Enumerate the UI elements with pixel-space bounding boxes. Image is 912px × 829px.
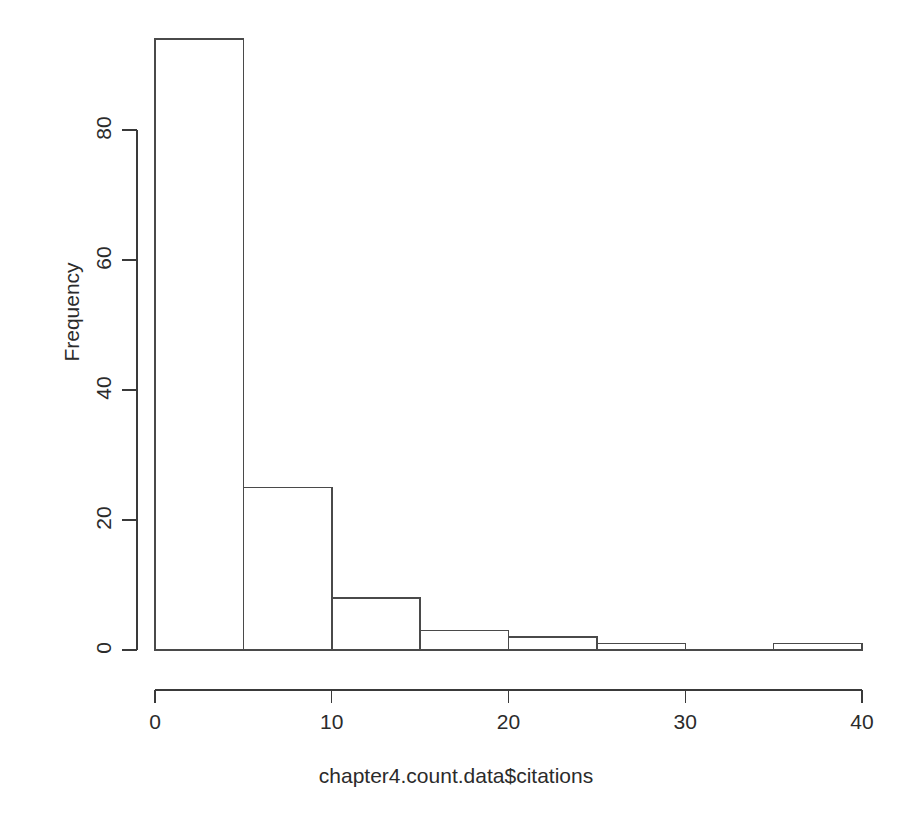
- histogram-bar: [597, 644, 685, 651]
- y-tick-label: 40: [84, 376, 124, 404]
- x-tick-label: 30: [674, 710, 697, 734]
- x-tick-label: 40: [850, 710, 873, 734]
- histogram-bar: [243, 488, 331, 651]
- histogram-bars: [155, 39, 862, 650]
- histogram-plot: 020406080 010203040 chapter4.count.data$…: [0, 0, 912, 829]
- histogram-bar: [509, 637, 597, 650]
- y-axis: [122, 130, 137, 650]
- y-tick-label: 60: [84, 246, 124, 274]
- x-axis: [155, 690, 862, 703]
- histogram-bar: [332, 598, 420, 650]
- histogram-bar: [774, 644, 862, 651]
- histogram-bar: [420, 631, 508, 651]
- y-tick-label: 0: [84, 636, 124, 664]
- y-tick-label-text: 80: [92, 108, 116, 148]
- y-tick-label-text: 0: [92, 628, 116, 668]
- x-tick-label: 0: [149, 710, 161, 734]
- x-tick-label: 10: [320, 710, 343, 734]
- y-axis-title: Frequency: [22, 300, 52, 324]
- histogram-bar: [155, 39, 243, 650]
- plot-canvas: [0, 0, 912, 829]
- y-tick-label-text: 60: [92, 238, 116, 278]
- x-tick-label: 20: [497, 710, 520, 734]
- y-tick-label-text: 20: [92, 498, 116, 538]
- y-tick-label-text: 40: [92, 368, 116, 408]
- x-axis-title: chapter4.count.data$citations: [0, 764, 912, 788]
- y-tick-label: 80: [84, 116, 124, 144]
- y-axis-title-text: Frequency: [60, 262, 84, 361]
- y-tick-label: 20: [84, 506, 124, 534]
